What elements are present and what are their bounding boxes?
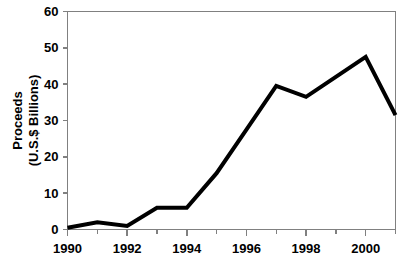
- x-axis-tick-label: 1998: [292, 241, 321, 256]
- y-axis-tick-label: 30: [44, 113, 58, 128]
- x-axis-tick-label: 1994: [172, 241, 202, 256]
- y-axis-title-line: Proceeds: [10, 91, 25, 150]
- x-axis-tick-label: 1992: [113, 241, 142, 256]
- y-axis-tick-label: 60: [44, 4, 58, 19]
- y-axis-tick-label: 40: [44, 77, 58, 92]
- x-axis-tick-label: 1990: [53, 241, 82, 256]
- chart-container: 0102030405060199019921994199619982000Pro…: [0, 0, 406, 267]
- x-axis-tick-label: 1996: [232, 241, 261, 256]
- y-axis-tick-label: 50: [44, 40, 58, 55]
- y-axis-tick-label: 10: [44, 186, 58, 201]
- y-axis-tick-label: 0: [51, 222, 58, 237]
- y-axis-title-line: (U.S.$ Billions): [26, 75, 41, 167]
- x-axis-tick-label: 2000: [351, 241, 380, 256]
- line-chart: 0102030405060199019921994199619982000Pro…: [0, 0, 406, 267]
- plot-frame: [68, 12, 396, 230]
- y-axis-title: Proceeds(U.S.$ Billions): [10, 75, 41, 167]
- y-axis-tick-label: 20: [44, 149, 58, 164]
